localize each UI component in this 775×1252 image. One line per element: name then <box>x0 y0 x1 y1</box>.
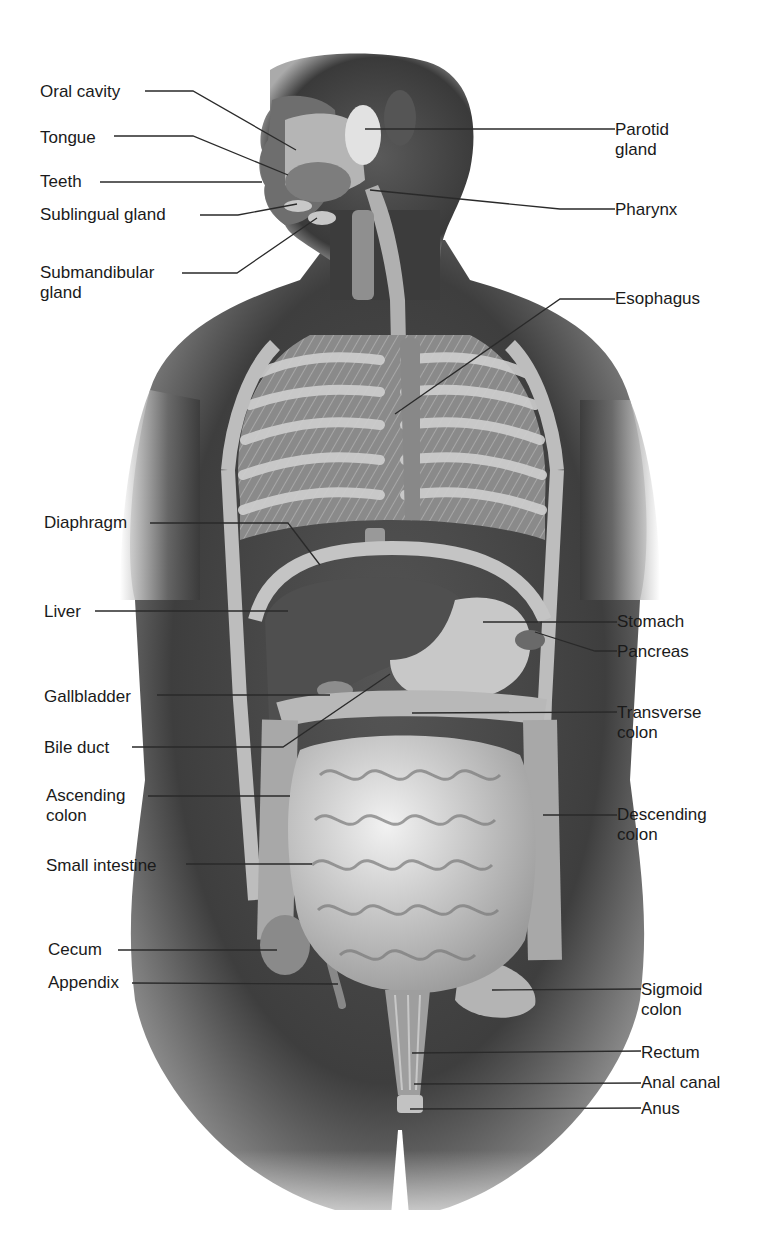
label-cecum: Cecum <box>48 940 102 960</box>
label-gallbladder: Gallbladder <box>44 687 131 707</box>
label-sigmoid-colon: Sigmoid colon <box>641 980 702 1020</box>
label-anus: Anus <box>641 1099 680 1119</box>
label-diaphragm: Diaphragm <box>44 513 127 533</box>
tongue-region <box>285 162 351 202</box>
ear <box>384 90 416 146</box>
label-teeth: Teeth <box>40 172 82 192</box>
label-transverse-colon: Transverse colon <box>617 703 701 743</box>
label-anal-canal: Anal canal <box>641 1073 720 1093</box>
parotid-gland-region <box>345 105 381 165</box>
digestive-system-diagram: Oral cavityTongueTeethSublingual glandSu… <box>0 0 775 1252</box>
label-small-intestine: Small intestine <box>46 856 157 876</box>
label-bile-duct: Bile duct <box>44 738 109 758</box>
label-stomach: Stomach <box>617 612 684 632</box>
label-oral-cavity: Oral cavity <box>40 82 120 102</box>
anus-region <box>397 1095 423 1113</box>
label-pharynx: Pharynx <box>615 200 677 220</box>
descending-colon-region <box>540 720 545 960</box>
label-sublingual-gland: Sublingual gland <box>40 205 166 225</box>
label-descending-colon: Descending colon <box>617 805 707 845</box>
right-arm <box>580 400 660 600</box>
label-esophagus: Esophagus <box>615 289 700 309</box>
label-liver: Liver <box>44 602 81 622</box>
submandibular-gland-region <box>308 211 336 225</box>
label-parotid-gland: Parotid gland <box>615 120 669 160</box>
label-rectum: Rectum <box>641 1043 700 1063</box>
label-tongue: Tongue <box>40 128 96 148</box>
left-arm <box>120 390 200 600</box>
label-submandibular-gland: Submandibular gland <box>40 263 154 303</box>
label-pancreas: Pancreas <box>617 642 689 662</box>
label-appendix: Appendix <box>48 973 119 993</box>
label-ascending-colon: Ascending colon <box>46 786 125 826</box>
ascending-colon-region <box>275 720 280 940</box>
